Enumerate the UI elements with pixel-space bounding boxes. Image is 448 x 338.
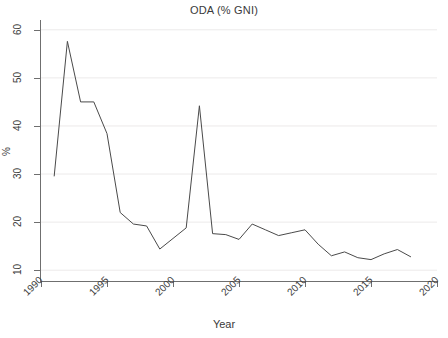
y-tick-label-10: 10 [12,257,23,283]
y-tick-label-20: 20 [12,209,23,235]
chart-container: ODA (% GNI) 102030405060 199019952000200… [0,0,448,338]
chart-title: ODA (% GNI) [0,4,448,16]
plot-area [41,25,437,275]
y-tick-20 [34,222,40,223]
y-tick-30 [34,174,40,175]
y-tick-50 [34,78,40,79]
y-tick-label-40: 40 [12,112,23,138]
y-tick-60 [34,30,40,31]
y-tick-label-50: 50 [12,64,23,90]
x-axis-title: Year [0,318,448,330]
y-axis-line [40,20,41,282]
y-tick-label-30: 30 [12,161,23,187]
series-layer [41,25,437,275]
data-line-oda [54,41,410,259]
y-axis-title: % [1,147,12,156]
y-tick-10 [34,270,40,271]
y-tick-40 [34,126,40,127]
y-tick-label-60: 60 [12,16,23,42]
